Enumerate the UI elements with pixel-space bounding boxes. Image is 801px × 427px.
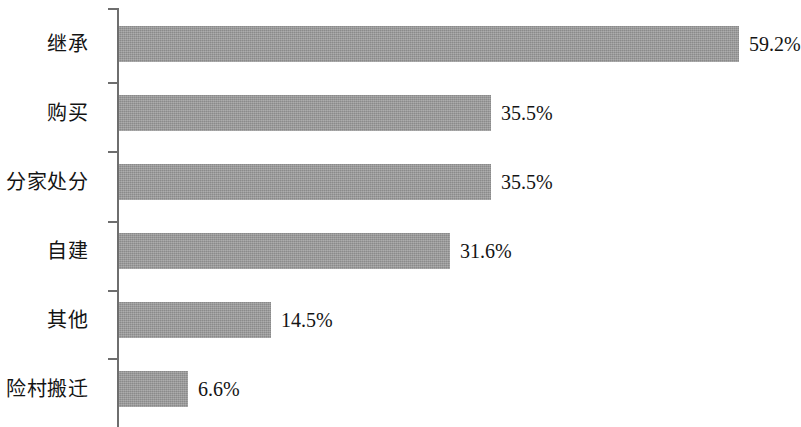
category-label: 分家处分 xyxy=(0,164,88,200)
bar-value-label: 35.5% xyxy=(491,164,553,200)
category-label: 自建 xyxy=(0,233,88,269)
bar-value-label: 59.2% xyxy=(739,26,801,62)
bar-row: 分家处分 35.5% xyxy=(0,164,788,230)
bar-track: 14.5% xyxy=(119,302,788,338)
bar-row: 险村搬迁 6.6% xyxy=(0,371,788,427)
bar xyxy=(119,302,271,338)
bar xyxy=(119,26,739,62)
category-label: 险村搬迁 xyxy=(0,371,88,407)
bar-row: 购买 35.5% xyxy=(0,95,788,161)
bar-row: 继承 59.2% xyxy=(0,26,788,92)
bar-value-label: 31.6% xyxy=(450,233,512,269)
bar-track: 6.6% xyxy=(119,371,788,407)
bar-track: 35.5% xyxy=(119,164,788,200)
bar xyxy=(119,95,491,131)
bar-track: 35.5% xyxy=(119,95,788,131)
category-label: 继承 xyxy=(0,26,88,62)
bar-row: 自建 31.6% xyxy=(0,233,788,299)
bar-track: 31.6% xyxy=(119,233,788,269)
bar xyxy=(119,371,188,407)
axis-tick xyxy=(108,8,117,10)
bar-value-label: 6.6% xyxy=(188,371,240,407)
bar xyxy=(119,233,450,269)
category-label: 其他 xyxy=(0,302,88,338)
bar-track: 59.2% xyxy=(119,26,788,62)
bar-value-label: 35.5% xyxy=(491,95,553,131)
category-label: 购买 xyxy=(0,95,88,131)
bar-value-label: 14.5% xyxy=(271,302,333,338)
bar-row: 其他 14.5% xyxy=(0,302,788,368)
bar xyxy=(119,164,491,200)
